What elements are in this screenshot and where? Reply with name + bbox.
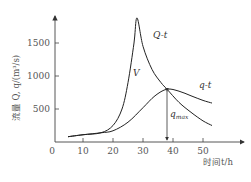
x-tick-label: 40 (167, 146, 179, 156)
hydrograph-chart: 500 1000 1500 0 10 20 30 40 50 时间t/h 流量 … (0, 0, 251, 182)
y-ticks (55, 43, 59, 109)
x-ticks (83, 138, 203, 142)
x-tick-label: 10 (77, 146, 89, 156)
area-label-V: V (133, 68, 141, 78)
y-axis-title: 流量 Q, q/(m³/s) (11, 55, 21, 121)
y-tick-label: 1500 (27, 38, 50, 48)
inflow-hydrograph-Q-t (68, 18, 212, 137)
qmax-label: qmax (170, 109, 189, 120)
x-axis-title: 时间t/h (203, 157, 233, 167)
curve-label-Q-t: Q-t (153, 30, 168, 40)
y-tick-label: 1000 (27, 71, 50, 81)
curve-label-q-t: q-t (199, 80, 212, 90)
y-tick-label: 500 (33, 104, 50, 114)
x-tick-label: 20 (107, 146, 119, 156)
outflow-hydrograph-q-t (68, 89, 212, 137)
x-tick-label: 30 (137, 146, 149, 156)
origin-label: 0 (49, 146, 55, 156)
x-tick-label: 50 (197, 146, 209, 156)
